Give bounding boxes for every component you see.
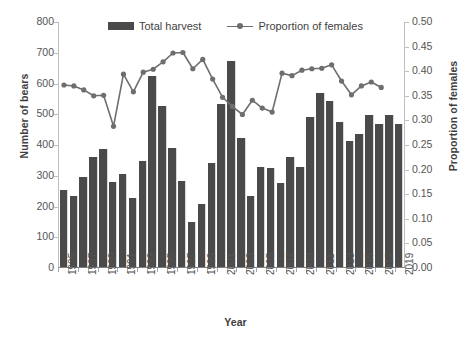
x-axis-title: Year bbox=[0, 316, 471, 328]
plot-area bbox=[58, 22, 405, 268]
y-axis-right-tick-label: 0.20 bbox=[412, 163, 458, 175]
y-axis-left-tick-label: 500 bbox=[14, 107, 54, 119]
line-data-point bbox=[270, 109, 275, 114]
x-axis-tick-mark bbox=[395, 268, 396, 272]
x-axis-tick-label: 2001 bbox=[226, 253, 237, 275]
line-data-point bbox=[210, 76, 215, 81]
y-axis-right-tick-label: 0.05 bbox=[412, 236, 458, 248]
line-data-point bbox=[230, 104, 235, 109]
line-data-point bbox=[180, 50, 185, 55]
y-axis-left-tick-label: 600 bbox=[14, 77, 54, 89]
x-axis-tick-label: 2003 bbox=[245, 253, 256, 275]
legend-item-proportion-of-females: Proportion of females bbox=[227, 20, 363, 32]
line-data-point bbox=[190, 66, 195, 71]
line-data-point bbox=[260, 106, 265, 111]
y-axis-right-tick-label: 0.00 bbox=[412, 261, 458, 273]
x-axis-tick-label: 1995 bbox=[166, 253, 177, 275]
line-data-point bbox=[379, 85, 384, 90]
x-axis-tick-mark bbox=[137, 268, 138, 272]
chart-legend: Total harvest Proportion of females bbox=[108, 20, 363, 32]
x-axis-tick-mark bbox=[157, 268, 158, 272]
line-data-point bbox=[299, 68, 304, 73]
x-axis-tick-label: 2005 bbox=[265, 253, 276, 275]
line-data-point bbox=[349, 92, 354, 97]
x-axis-tick-mark bbox=[296, 268, 297, 272]
y-axis-right-tick-label: 0.45 bbox=[412, 40, 458, 52]
bear-harvest-chart: Number of bears Proportion of females Ye… bbox=[0, 0, 471, 337]
y-axis-left-tick-label: 100 bbox=[14, 230, 54, 242]
y-axis-right-tick-label: 0.10 bbox=[412, 212, 458, 224]
line-data-point bbox=[111, 124, 116, 129]
legend-item-total-harvest: Total harvest bbox=[108, 20, 201, 32]
line-data-point bbox=[339, 78, 344, 83]
line-data-point bbox=[61, 82, 66, 87]
line-data-point bbox=[131, 89, 136, 94]
line-data-point bbox=[250, 98, 255, 103]
x-axis-tick-label: 2009 bbox=[305, 253, 316, 275]
y-axis-left-tick-label: 800 bbox=[14, 15, 54, 27]
line-data-point bbox=[170, 50, 175, 55]
line-data-point bbox=[359, 83, 364, 88]
x-axis-tick-label: 1985 bbox=[67, 253, 78, 275]
y-axis-left-tick-label: 300 bbox=[14, 169, 54, 181]
line-data-point bbox=[279, 71, 284, 76]
y-axis-right-tick-label: 0.15 bbox=[412, 187, 458, 199]
y-axis-left-tick-label: 400 bbox=[14, 138, 54, 150]
line-data-point bbox=[240, 112, 245, 117]
x-axis-tick-mark bbox=[58, 268, 59, 272]
y-axis-left-tick-label: 200 bbox=[14, 200, 54, 212]
legend-label-total-harvest: Total harvest bbox=[139, 20, 201, 32]
line-data-point bbox=[141, 70, 146, 75]
x-axis-tick-label: 1987 bbox=[87, 253, 98, 275]
x-axis-tick-label: 1989 bbox=[107, 253, 118, 275]
y-axis-right-tick-label: 0.50 bbox=[412, 15, 458, 27]
x-axis-tick-label: 1991 bbox=[126, 253, 137, 275]
line-data-point bbox=[71, 83, 76, 88]
x-axis-tick-mark bbox=[276, 268, 277, 272]
y-axis-left-tick-label: 0 bbox=[14, 261, 54, 273]
line-data-point bbox=[329, 62, 334, 67]
x-axis-tick-label: 2013 bbox=[345, 253, 356, 275]
bar-swatch-icon bbox=[108, 22, 134, 30]
y-axis-right-tick-label: 0.25 bbox=[412, 138, 458, 150]
line-data-point bbox=[81, 87, 86, 92]
x-axis-tick-label: 2007 bbox=[285, 253, 296, 275]
x-axis-tick-label: 2011 bbox=[325, 253, 336, 275]
y-axis-right-tick-label: 0.30 bbox=[412, 113, 458, 125]
line-data-point bbox=[369, 79, 374, 84]
y-axis-right-tick-label: 0.35 bbox=[412, 89, 458, 101]
line-data-point bbox=[121, 72, 126, 77]
x-axis-tick-mark bbox=[177, 268, 178, 272]
line-data-point bbox=[161, 59, 166, 64]
x-axis-tick-label: 2017 bbox=[384, 253, 395, 275]
line-data-point bbox=[101, 93, 106, 98]
line-data-point bbox=[200, 57, 205, 62]
line-data-point bbox=[309, 66, 314, 71]
x-axis-tick-label: 2019 bbox=[404, 253, 415, 275]
line-data-point bbox=[151, 67, 156, 72]
line-data-point bbox=[91, 93, 96, 98]
y-axis-left-tick-label: 700 bbox=[14, 46, 54, 58]
legend-label-proportion-of-females: Proportion of females bbox=[258, 20, 363, 32]
x-axis-tick-label: 1993 bbox=[146, 253, 157, 275]
line-marker-icon bbox=[227, 22, 253, 31]
x-axis-tick-label: 2015 bbox=[364, 253, 375, 275]
x-axis-tick-label: 1997 bbox=[186, 253, 197, 275]
x-axis-tick-label: 1999 bbox=[206, 253, 217, 275]
line-data-point bbox=[289, 73, 294, 78]
line-series bbox=[59, 22, 406, 268]
x-axis-tick-mark bbox=[256, 268, 257, 272]
y-axis-right-tick-label: 0.40 bbox=[412, 64, 458, 76]
line-data-point bbox=[319, 66, 324, 71]
line-data-point bbox=[220, 95, 225, 100]
x-axis-tick-mark bbox=[375, 268, 376, 272]
